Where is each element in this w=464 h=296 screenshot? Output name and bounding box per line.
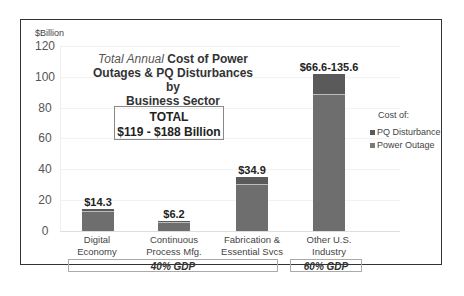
legend-label: PQ Disturbance [377,127,441,137]
data-label: $34.9 [212,164,292,176]
y-tick: 100 [30,70,60,84]
bar-segment-pq [313,74,345,94]
bar-segment-outage [82,211,114,231]
bar-continuous-process [158,221,190,231]
data-label: $66.6-135.6 [289,61,369,73]
title-line1: Cost of Power [164,52,248,66]
gdp-60-box: 60% GDP [290,259,362,272]
category-line: Process Mfg. [129,246,219,258]
bar-segment-outage [313,94,345,231]
bar-segment-pq [236,177,268,184]
data-label: $14.3 [58,196,138,208]
bar-segment-outage [158,222,190,231]
y-tick: 60 [30,131,60,145]
legend-item-pq: PQ Disturbance [370,127,441,137]
legend-swatch-icon [370,130,375,135]
x-category-label: Other U.S. Industry [284,234,374,258]
total-value: $119 - $188 Billion [115,125,223,140]
legend-swatch-icon [370,143,375,148]
gdp-40-box: 40% GDP [68,259,278,272]
bar-other-us-industry [313,74,345,231]
legend-item-outage: Power Outage [370,140,441,150]
title-line2: Outages & PQ Disturbances by [93,66,253,94]
legend-title: Cost of: [378,110,441,120]
chart-title: Total Annual Cost of Power Outages & PQ … [88,52,258,108]
category-line: Other U.S. [284,234,374,246]
gridline [60,138,400,139]
category-line: Industry [284,246,374,258]
total-label: TOTAL [115,110,223,125]
category-line: Continuous [129,234,219,246]
y-tick: 120 [30,39,60,53]
bar-digital-economy [82,209,114,231]
bar-fabrication [236,177,268,231]
gridline [60,46,400,47]
total-annotation-box: TOTAL $119 - $188 Billion [114,106,224,140]
data-label: $6.2 [134,208,214,220]
bar-segment-outage [236,184,268,231]
gridline [60,108,400,109]
title-italic: Total Annual [98,52,164,66]
legend-label: Power Outage [377,140,435,150]
y-tick: 80 [30,101,60,115]
x-axis-line [60,231,400,232]
y-axis-label: $Billion [35,28,64,38]
legend: Cost of: PQ Disturbance Power Outage [370,110,441,153]
y-tick: 40 [30,162,60,176]
y-tick: 20 [30,193,60,207]
x-category-label: Continuous Process Mfg. [129,234,219,258]
